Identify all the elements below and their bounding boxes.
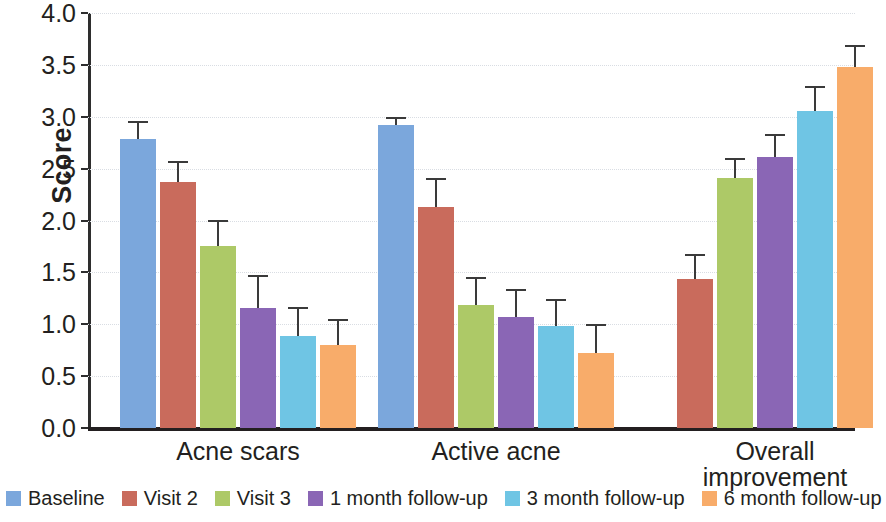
legend-item[interactable]: Visit 2 [122, 487, 198, 510]
legend-swatch [122, 491, 137, 506]
error-bar-cap [546, 299, 566, 301]
error-bar-line [337, 321, 339, 345]
legend-label: Visit 3 [237, 487, 291, 510]
legend-item[interactable]: 3 month follow-up [505, 487, 685, 510]
bar-group [113, 13, 363, 428]
error-bar-line [814, 88, 816, 111]
bar-slot [797, 13, 833, 428]
legend-item[interactable]: 1 month follow-up [308, 487, 488, 510]
bar[interactable] [200, 246, 236, 428]
bar-slot [677, 13, 713, 428]
error-bar-line [177, 163, 179, 182]
y-tick-mark [81, 271, 88, 273]
error-bar-line [395, 119, 397, 125]
bar-slot [498, 13, 534, 428]
y-tick-mark [81, 168, 88, 170]
legend-swatch [6, 491, 21, 506]
y-tick-mark [81, 375, 88, 377]
bar[interactable] [240, 308, 276, 428]
error-bar-line [734, 160, 736, 178]
bar[interactable] [320, 345, 356, 428]
error-bar-cap [248, 275, 268, 277]
y-tick-label: 1.5 [41, 258, 76, 287]
error-bar-cap [765, 134, 785, 136]
legend-swatch [215, 491, 230, 506]
error-bar-line [137, 123, 139, 139]
bar[interactable] [120, 139, 156, 428]
bar[interactable] [280, 336, 316, 428]
y-tick-label: 2.5 [41, 154, 76, 183]
error-bar-cap [506, 289, 526, 291]
bar-group [633, 13, 883, 428]
bar-slot [837, 13, 873, 428]
legend-item[interactable]: 6 month follow-up [702, 487, 882, 510]
bar[interactable] [717, 178, 753, 428]
bar[interactable] [458, 305, 494, 428]
y-tick-mark [81, 64, 88, 66]
bar[interactable] [378, 125, 414, 428]
error-bar-cap [288, 307, 308, 309]
bar-group [371, 13, 621, 428]
error-bar-cap [168, 161, 188, 163]
bar[interactable] [837, 67, 873, 428]
bar-slot [280, 13, 316, 428]
y-tick-mark [81, 323, 88, 325]
bar-slot [717, 13, 753, 428]
bar[interactable] [538, 326, 574, 428]
error-bar-line [694, 256, 696, 279]
y-tick-label: 0.5 [41, 362, 76, 391]
error-bar-cap [128, 121, 148, 123]
bar-slot [538, 13, 574, 428]
bar-slot [320, 13, 356, 428]
legend-label: 6 month follow-up [724, 487, 882, 510]
legend-item[interactable]: Visit 3 [215, 487, 291, 510]
bar[interactable] [498, 317, 534, 428]
plot-area: 0.00.51.01.52.02.53.03.54.0 [88, 13, 855, 428]
y-tick-mark [81, 427, 88, 429]
bar[interactable] [160, 182, 196, 428]
y-tick-mark [81, 116, 88, 118]
error-bar-cap [725, 158, 745, 160]
bar-slot [120, 13, 156, 428]
bar[interactable] [578, 353, 614, 428]
error-bar-line [297, 309, 299, 336]
legend-label: Baseline [28, 487, 105, 510]
error-bar-cap [805, 86, 825, 88]
error-bar-line [555, 301, 557, 326]
error-bar-line [435, 180, 437, 207]
chart-legend: BaselineVisit 2Visit 31 month follow-up3… [0, 487, 875, 510]
legend-item[interactable]: Baseline [6, 487, 105, 510]
error-bar-cap [386, 117, 406, 119]
error-bar-line [854, 47, 856, 67]
bar-slot [378, 13, 414, 428]
error-bar-line [257, 277, 259, 308]
legend-swatch [702, 491, 717, 506]
error-bar-line [475, 279, 477, 305]
error-bar-line [774, 136, 776, 157]
error-bar-cap [426, 178, 446, 180]
error-bar-line [595, 326, 597, 353]
y-tick-label: 4.0 [41, 0, 76, 28]
x-axis-category-label-line: Overall [617, 438, 886, 464]
bar[interactable] [757, 157, 793, 428]
legend-label: Visit 2 [144, 487, 198, 510]
error-bar-cap [328, 319, 348, 321]
bar[interactable] [418, 207, 454, 428]
error-bar-cap [586, 324, 606, 326]
bar[interactable] [677, 279, 713, 428]
y-tick-label: 3.5 [41, 50, 76, 79]
y-tick-label: 2.0 [41, 206, 76, 235]
y-tick-mark [81, 12, 88, 14]
error-bar-cap [685, 254, 705, 256]
legend-label: 3 month follow-up [527, 487, 685, 510]
bar-slot [458, 13, 494, 428]
error-bar-cap [208, 220, 228, 222]
legend-swatch [505, 491, 520, 506]
error-bar-line [217, 222, 219, 247]
bar[interactable] [797, 111, 833, 428]
error-bar-line [515, 291, 517, 317]
bar-slot [757, 13, 793, 428]
y-tick-label: 1.0 [41, 310, 76, 339]
y-tick-label: 3.0 [41, 102, 76, 131]
